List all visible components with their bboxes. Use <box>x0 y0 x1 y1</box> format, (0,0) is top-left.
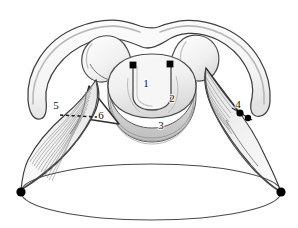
anatomy-diagram-canvas: 1 2 3 4 5 6 <box>0 0 298 228</box>
marker-right-base <box>276 187 285 196</box>
label-4: 4 <box>235 98 241 110</box>
marker-right-joint-upper <box>236 109 243 116</box>
anatomy-figure: 1 2 3 4 5 6 <box>0 0 298 228</box>
label-2: 2 <box>169 92 175 104</box>
marker-left-base <box>16 187 25 196</box>
base-ellipse-path <box>21 164 281 220</box>
label-6: 6 <box>98 109 104 121</box>
cricoid-inner-cavity <box>133 62 171 110</box>
marker-right-joint-lower <box>245 115 251 121</box>
label-1: 1 <box>143 77 149 89</box>
cricoid-ring <box>108 54 196 144</box>
label-5: 5 <box>53 99 59 111</box>
tracheal-ring-ellipse <box>21 164 281 220</box>
label-3: 3 <box>158 119 164 131</box>
marker-right-vocal-process <box>167 61 174 68</box>
marker-left-vocal-process <box>130 62 137 69</box>
